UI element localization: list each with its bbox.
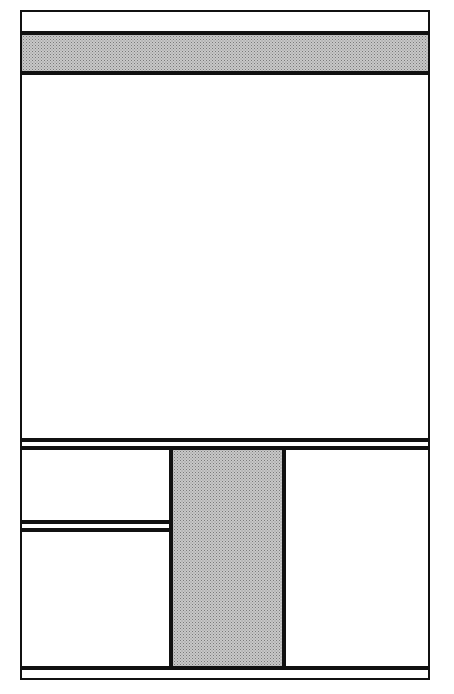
header-band [20, 33, 430, 73]
main-panel [20, 73, 430, 440]
left-divider-strip [20, 522, 171, 530]
left-upper-panel [20, 448, 171, 522]
right-column [284, 448, 430, 668]
left-lower-panel [20, 530, 171, 668]
divider-strip [20, 440, 430, 448]
footer-strip [20, 668, 430, 680]
top-strip [20, 10, 430, 33]
center-column [171, 448, 284, 668]
